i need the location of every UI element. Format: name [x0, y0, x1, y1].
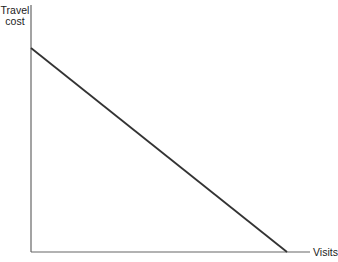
x-axis-label: Visits — [313, 246, 338, 258]
demand-line — [31, 48, 287, 252]
y-axis-label-line-2: cost — [0, 16, 30, 27]
y-axis-label: Travel cost — [0, 5, 30, 27]
